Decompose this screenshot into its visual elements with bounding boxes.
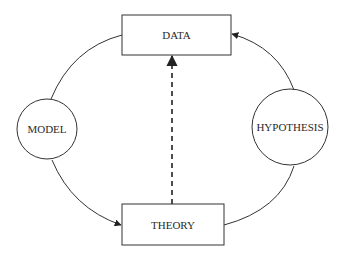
node-theory-label: THEORY	[151, 219, 195, 231]
edge-model-to-theory	[52, 160, 121, 225]
edge-model-to-data	[51, 35, 122, 99]
node-model: MODEL	[17, 99, 77, 159]
node-theory: THEORY	[122, 204, 224, 245]
edge-theory-to-hypothesis	[224, 166, 294, 225]
node-model-label: MODEL	[27, 123, 66, 135]
edge-hypothesis-to-data	[232, 34, 294, 90]
cycle-diagram: DATA THEORY MODEL HYPOTHESIS	[0, 0, 345, 258]
node-hypothesis-label: HYPOTHESIS	[256, 121, 323, 133]
node-data: DATA	[122, 15, 231, 55]
node-hypothesis: HYPOTHESIS	[252, 89, 328, 165]
node-data-label: DATA	[162, 29, 191, 41]
